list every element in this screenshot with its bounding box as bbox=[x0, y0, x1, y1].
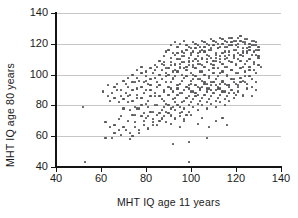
scatter-point bbox=[183, 100, 185, 102]
scatter-point bbox=[122, 126, 124, 128]
scatter-point bbox=[174, 75, 176, 77]
scatter-point bbox=[185, 114, 187, 116]
scatter-point bbox=[248, 75, 250, 77]
scatter-point bbox=[131, 135, 133, 137]
scatter-point bbox=[172, 106, 174, 108]
scatter-point bbox=[192, 106, 194, 108]
scatter-point bbox=[179, 126, 181, 128]
scatter-point bbox=[230, 89, 232, 91]
scatter-point bbox=[217, 43, 219, 45]
scatter-point bbox=[127, 101, 129, 103]
x-tick-label-80: 80 bbox=[126, 172, 166, 184]
scatter-point bbox=[145, 70, 147, 72]
scatter-point bbox=[237, 72, 239, 74]
scatter-point bbox=[176, 87, 178, 89]
scatter-point bbox=[107, 95, 109, 97]
scatter-point bbox=[251, 78, 253, 80]
scatter-point bbox=[156, 114, 158, 116]
y-tick-label-80: 80 bbox=[0, 98, 48, 110]
scatter-point bbox=[138, 129, 140, 131]
scatter-point bbox=[140, 104, 142, 106]
scatter-point bbox=[253, 69, 255, 71]
y-tick-label-140: 140 bbox=[0, 6, 48, 18]
scatter-point bbox=[138, 107, 140, 109]
scatter-point bbox=[190, 114, 192, 116]
data-points-container bbox=[56, 13, 281, 167]
scatter-point bbox=[113, 86, 115, 88]
scatter-point bbox=[228, 92, 230, 94]
scatter-point bbox=[122, 98, 124, 100]
scatter-point bbox=[134, 126, 136, 128]
scatter-point bbox=[253, 44, 255, 46]
scatter-point bbox=[127, 77, 129, 79]
scatter-point bbox=[134, 81, 136, 83]
scatter-point bbox=[185, 97, 187, 99]
x-tick-label-140: 140 bbox=[261, 172, 298, 184]
scatter-point bbox=[113, 97, 115, 99]
scatter-point bbox=[206, 107, 208, 109]
scatter-point bbox=[185, 75, 187, 77]
scatter-point bbox=[226, 41, 228, 43]
scatter-point bbox=[120, 95, 122, 97]
scatter-point bbox=[215, 120, 217, 122]
scatter-point bbox=[197, 103, 199, 105]
scatter-point bbox=[161, 63, 163, 65]
scatter-point bbox=[149, 67, 151, 69]
scatter-point bbox=[206, 54, 208, 56]
scatter-point bbox=[134, 114, 136, 116]
scatter-point bbox=[217, 75, 219, 77]
scatter-point bbox=[111, 137, 113, 139]
scatter-point bbox=[136, 94, 138, 96]
scatter-point bbox=[221, 70, 223, 72]
scatter-point bbox=[235, 40, 237, 42]
scatter-points-layer bbox=[56, 13, 281, 167]
scatter-point bbox=[239, 35, 241, 37]
scatter-point bbox=[154, 95, 156, 97]
x-tick-label-100: 100 bbox=[171, 172, 211, 184]
x-tick-label-40: 40 bbox=[36, 172, 76, 184]
scatter-point bbox=[176, 52, 178, 54]
scatter-point bbox=[215, 78, 217, 80]
scatter-point bbox=[140, 72, 142, 74]
scatter-point bbox=[143, 112, 145, 114]
scatter-point bbox=[147, 127, 149, 129]
scatter-point bbox=[190, 80, 192, 82]
scatter-point bbox=[228, 100, 230, 102]
scatter-point bbox=[208, 126, 210, 128]
scatter-point bbox=[163, 61, 165, 63]
scatter-point bbox=[188, 57, 190, 59]
scatter-point bbox=[197, 123, 199, 125]
scatter-point bbox=[219, 83, 221, 85]
scatter-point bbox=[131, 89, 133, 91]
scatter-point bbox=[125, 129, 127, 131]
scatter-point bbox=[206, 83, 208, 85]
scatter-point bbox=[181, 55, 183, 57]
scatter-point bbox=[152, 118, 154, 120]
scatter-point bbox=[129, 109, 131, 111]
scatter-point bbox=[167, 86, 169, 88]
scatter-point bbox=[183, 55, 185, 57]
scatter-point bbox=[215, 52, 217, 54]
scatter-point bbox=[188, 95, 190, 97]
scatter-point bbox=[215, 106, 217, 108]
scatter-point bbox=[248, 58, 250, 60]
scatter-point bbox=[242, 52, 244, 54]
scatter-point bbox=[219, 101, 221, 103]
scatter-point bbox=[244, 63, 246, 65]
scatter-point bbox=[246, 83, 248, 85]
scatter-point bbox=[158, 112, 160, 114]
scatter-point bbox=[158, 95, 160, 97]
scatter-point bbox=[120, 134, 122, 136]
scatter-point bbox=[161, 69, 163, 71]
scatter-point bbox=[129, 138, 131, 140]
scatter-point bbox=[183, 61, 185, 63]
scatter-point bbox=[215, 57, 217, 59]
scatter-point bbox=[248, 66, 250, 68]
scatter-point bbox=[255, 72, 257, 74]
scatter-point bbox=[206, 137, 208, 139]
scatter-point bbox=[215, 100, 217, 102]
scatter-point bbox=[224, 83, 226, 85]
scatter-point bbox=[210, 89, 212, 91]
scatter-point bbox=[210, 57, 212, 59]
scatter-point bbox=[253, 63, 255, 65]
